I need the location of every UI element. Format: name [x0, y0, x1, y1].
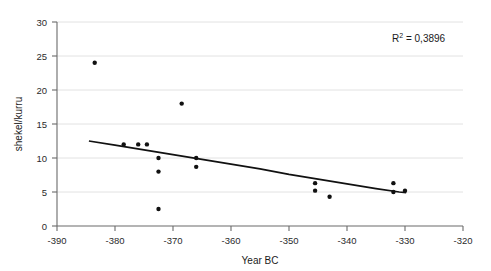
- y-tick-label-30: 30: [36, 17, 47, 28]
- data-points-layer: [93, 61, 408, 212]
- x-tick-label--380: -380: [105, 235, 124, 246]
- data-point: [136, 142, 140, 146]
- x-tick-label--350: -350: [279, 235, 298, 246]
- data-point: [93, 61, 97, 65]
- x-axis: [57, 226, 463, 231]
- y-axis: [52, 22, 57, 226]
- data-point: [403, 188, 407, 192]
- chart-container: 30 25 20 15 10 5 0 -390 -380 -370 -360 -…: [0, 0, 491, 271]
- x-tick-label--360: -360: [221, 235, 240, 246]
- y-tick-label-20: 20: [36, 85, 47, 96]
- r-squared-annotation: R2 = 0,3896: [392, 32, 446, 44]
- x-tick-label--340: -340: [337, 235, 356, 246]
- x-tick-label--320: -320: [453, 235, 472, 246]
- data-point: [327, 195, 331, 199]
- trendline: [89, 141, 406, 193]
- data-point: [194, 156, 198, 160]
- y-tick-label-15: 15: [36, 119, 47, 130]
- data-point: [180, 101, 184, 105]
- x-axis-title: Year BC: [242, 255, 279, 266]
- data-point: [194, 165, 198, 169]
- data-point: [156, 156, 160, 160]
- y-tick-label-5: 5: [42, 187, 47, 198]
- y-tick-label-10: 10: [36, 153, 47, 164]
- gridlines: [57, 22, 463, 192]
- data-point: [391, 190, 395, 194]
- y-axis-title: shekel/kurru: [13, 97, 24, 151]
- data-point: [122, 142, 126, 146]
- x-tick-label--390: -390: [47, 235, 66, 246]
- data-point: [156, 207, 160, 211]
- r-squared-prefix: R: [392, 33, 399, 44]
- x-tick-labels: -390 -380 -370 -360 -350 -340 -330 -320: [47, 235, 472, 246]
- y-tick-labels: 30 25 20 15 10 5 0: [36, 17, 47, 232]
- data-point: [156, 169, 160, 173]
- data-point: [391, 181, 395, 185]
- data-point: [313, 181, 317, 185]
- data-point: [145, 142, 149, 146]
- data-point: [313, 188, 317, 192]
- r-squared-suffix: = 0,3896: [403, 33, 445, 44]
- y-tick-label-0: 0: [42, 221, 47, 232]
- y-tick-label-25: 25: [36, 51, 47, 62]
- x-tick-label--330: -330: [395, 235, 414, 246]
- scatter-chart: 30 25 20 15 10 5 0 -390 -380 -370 -360 -…: [0, 0, 491, 271]
- x-tick-label--370: -370: [163, 235, 182, 246]
